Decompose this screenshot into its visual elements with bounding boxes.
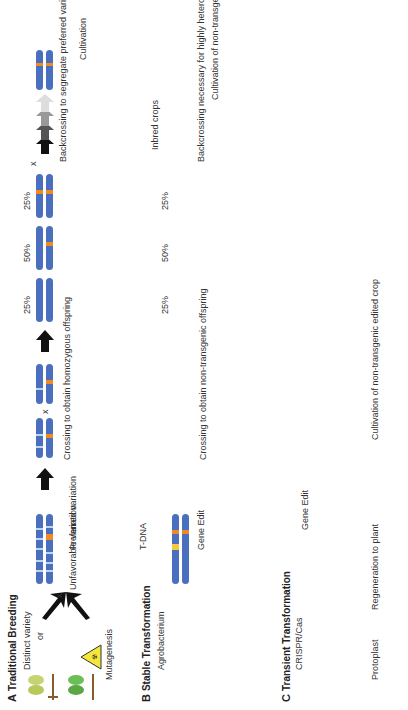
gene-edit-label: Gene Edit	[300, 490, 311, 530]
pct-label: 25%	[160, 192, 170, 210]
cultivation-label: Cultivation	[78, 18, 89, 60]
cultivation-label: Cultivation of non-transgenic edited cro…	[210, 0, 221, 100]
panel-c-title: CTransient Transformation	[280, 571, 292, 702]
svg-text:☢: ☢	[91, 654, 98, 660]
distinct-variety-label: Distinct variety	[22, 611, 33, 670]
crispr-label: CRISPR/Cas	[294, 617, 305, 670]
pct-label: 50%	[22, 244, 32, 262]
cross-symbol: x	[28, 162, 38, 167]
crossing-label: Crossing to obtain non-transgenic offspr…	[198, 289, 209, 460]
cultivation-label: Cultivation of non-transgenic edited cro…	[370, 279, 381, 440]
arrow-icon	[36, 590, 96, 620]
panel-b-letter: B	[140, 694, 152, 702]
pct-label: 25%	[160, 296, 170, 314]
cross-symbol: x	[40, 410, 50, 415]
panel-a-letter: A	[6, 694, 18, 702]
agrobacterium-label: Agrobacterium	[156, 611, 167, 670]
figure: ATraditional Breeding Distinct variety o…	[0, 0, 408, 710]
backcross-label: Backcrossing necessary for highly hetero…	[196, 0, 207, 162]
preferred-variation-label: Preferred variation	[68, 476, 79, 550]
panel-a-title: ATraditional Breeding	[6, 594, 18, 702]
panel-a-title-text: Traditional Breeding	[7, 594, 18, 691]
panel-c-letter: C	[280, 694, 292, 702]
gene-edit-label: Gene Edit	[196, 510, 207, 550]
mutagenesis-hazard-icon: ☢	[80, 644, 102, 670]
panel-b-title-text: Stable Transformation	[141, 585, 152, 691]
inbred-label: Inbred crops	[150, 100, 161, 150]
tdna-label: T-DNA	[138, 523, 149, 550]
regeneration-label: Regeneration to plant	[370, 524, 381, 610]
right-arrow-icon	[36, 468, 54, 490]
cross-symbol: x	[54, 594, 64, 599]
right-arrow-icon	[36, 330, 54, 352]
pct-label: 25%	[22, 192, 32, 210]
pct-label: 25%	[22, 296, 32, 314]
panel-b-title: BStable Transformation	[140, 585, 152, 702]
backcross-label: Backcrossing to segregate preferred vari…	[58, 0, 69, 162]
backcross-arrows-icon	[36, 94, 54, 154]
panel-c-title-text: Transient Transformation	[281, 571, 292, 691]
crossing-label: Crossing to obtain homozygous offspring	[62, 297, 73, 460]
pct-label: 50%	[160, 244, 170, 262]
mutagenesis-label: Mutagenesis	[104, 629, 115, 680]
protoplast-label: Protoplast	[370, 639, 381, 680]
or-label: or	[35, 632, 46, 640]
